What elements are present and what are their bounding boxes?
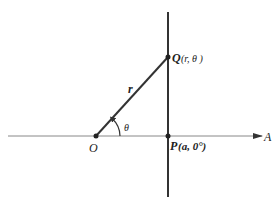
point-o [94,134,99,139]
axis-end-label: A [263,130,272,144]
polar-diagram: O A r θ Q (r, θ ) P (a, 0°) [0,0,277,205]
point-p [166,134,171,139]
angle-arc [112,119,120,137]
radius-label: r [128,82,133,96]
point-p-name: P [170,139,178,153]
radius-segment [96,57,168,136]
origin-label: O [89,141,98,155]
point-q [166,55,171,60]
point-q-name: Q [172,51,181,65]
point-q-coords: (r, θ ) [181,53,204,65]
point-p-coords: (a, 0°) [178,140,206,153]
angle-label: θ [124,122,129,133]
